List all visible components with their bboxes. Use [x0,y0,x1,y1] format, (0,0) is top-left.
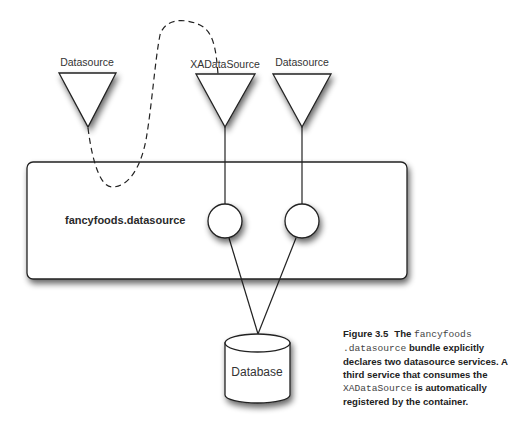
datasource-right-label: Datasource [275,56,329,68]
caption-code-3: XADataSource [343,383,412,394]
xadatasource-triangle [196,74,255,127]
bundle-label: fancyfoods.datasource [65,214,185,226]
datasource-left-label: Datasource [60,56,114,68]
caption-code-1: fancyfoods [414,329,472,340]
service-circle-1 [208,204,242,238]
figure-number: Figure 3.5 [343,328,388,339]
figure-caption: Figure 3.5The fancyfoods.datasource bund… [343,327,508,408]
database-label: Database [231,365,282,379]
xadatasource-label: XADataSource [190,58,259,70]
datasource-right-triangle [273,74,331,127]
service-circle-2 [285,204,319,238]
caption-code-2: .datasource [343,343,406,354]
datasource-left-triangle [59,73,116,127]
caption-text-1: The [394,328,414,339]
